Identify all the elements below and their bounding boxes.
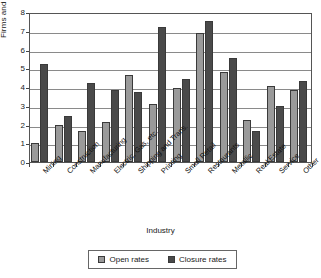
bar-closure-rate <box>64 116 72 162</box>
legend-label: Open rates <box>109 256 149 264</box>
legend-swatch-icon <box>98 256 105 263</box>
y-tick-label: 0 <box>7 159 25 167</box>
bar-open-rate <box>196 33 204 162</box>
bar-group <box>77 14 101 162</box>
y-tick-label: 5 <box>7 65 25 73</box>
y-tick-label: 7 <box>7 28 25 36</box>
bar-group <box>54 14 78 162</box>
y-tick-label: 6 <box>7 47 25 55</box>
bar-group <box>30 14 54 162</box>
y-tick-label: 2 <box>7 122 25 130</box>
x-axis-title: Industry <box>0 226 321 235</box>
y-tick-label: 1 <box>7 140 25 148</box>
bar-chart-figure: Firms and Enterprises 012345678 MiningCo… <box>0 0 321 278</box>
bar-open-rate <box>31 143 39 162</box>
bar-group <box>219 14 243 162</box>
y-tick-label: 8 <box>7 9 25 17</box>
bar-group <box>266 14 290 162</box>
y-tick-label: 3 <box>7 103 25 111</box>
legend-label: Closure rates <box>179 256 227 264</box>
bar-closure-rate <box>182 79 190 162</box>
bar-group <box>242 14 266 162</box>
legend-entry[interactable]: Open rates <box>98 256 149 264</box>
legend-entry[interactable]: Closure rates <box>168 256 227 264</box>
bar-group <box>195 14 219 162</box>
bar-closure-rate <box>299 81 307 162</box>
bar-group <box>289 14 313 162</box>
legend-swatch-icon <box>168 256 175 263</box>
bar-closure-rate <box>40 64 48 162</box>
x-tick-mark <box>29 163 30 167</box>
chart-legend: Open ratesClosure rates <box>88 250 237 269</box>
y-tick-label: 4 <box>7 84 25 92</box>
